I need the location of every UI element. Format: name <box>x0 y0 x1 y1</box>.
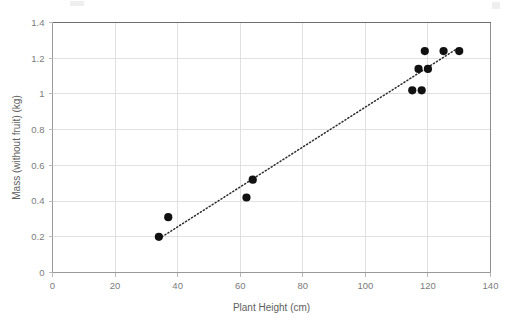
y-tick-label: 0.6 <box>31 160 44 171</box>
y-tick-label: 0.4 <box>31 195 44 206</box>
y-tick-label: 1.2 <box>31 53 44 64</box>
data-point <box>242 193 250 201</box>
x-tick-label: 120 <box>420 280 436 291</box>
data-point <box>424 65 432 73</box>
x-tick-label: 60 <box>235 280 246 291</box>
x-axis-title: Plant Height (cm) <box>233 302 310 313</box>
scan-artifact <box>492 2 500 9</box>
data-point <box>408 86 416 94</box>
scatter-chart: 00.20.40.60.811.21.4020406080100120140Pl… <box>0 0 514 324</box>
x-tick-label: 40 <box>172 280 183 291</box>
y-tick-label: 1 <box>39 88 44 99</box>
data-point <box>455 47 463 55</box>
chart-canvas: 00.20.40.60.811.21.4020406080100120140Pl… <box>0 0 514 324</box>
scan-artifact <box>70 1 84 6</box>
data-point <box>421 47 429 55</box>
data-point <box>418 86 426 94</box>
data-point <box>164 213 172 221</box>
data-point <box>414 65 422 73</box>
x-tick-label: 80 <box>297 280 308 291</box>
y-tick-label: 0.2 <box>31 231 44 242</box>
data-point <box>249 176 257 184</box>
x-tick-label: 100 <box>357 280 373 291</box>
y-axis-title: Mass (without fruit) (kg) <box>11 95 22 199</box>
data-point <box>439 47 447 55</box>
y-tick-label: 0 <box>39 267 44 278</box>
y-tick-label: 1.4 <box>31 17 44 28</box>
data-point <box>155 233 163 241</box>
trendline <box>162 49 456 237</box>
y-tick-label: 0.8 <box>31 124 44 135</box>
x-tick-label: 0 <box>50 280 55 291</box>
x-tick-label: 140 <box>483 280 499 291</box>
x-tick-label: 20 <box>110 280 121 291</box>
